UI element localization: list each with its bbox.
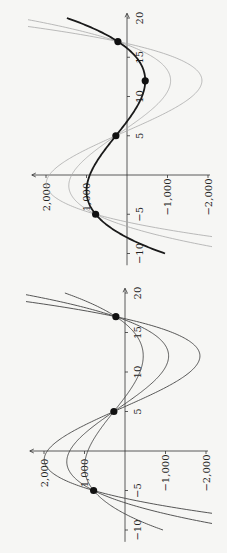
- x-tick-label: 5: [132, 408, 143, 414]
- value-tick-label: 2,000: [41, 183, 52, 212]
- x-tick-label: 10: [132, 366, 143, 379]
- x-tick-label: −5: [132, 483, 143, 498]
- data-point-marker: [92, 211, 99, 218]
- curve-line: [0, 261, 227, 545]
- chart-figure: −10−551015202,0001,000−1,000−2,000 −10−5…: [0, 0, 227, 553]
- curve-line: [0, 261, 227, 545]
- value-tick-label: −2,000: [201, 454, 212, 491]
- chart-panel-bottom: −10−551015202,0001,000−1,000−2,000: [0, 261, 227, 545]
- x-tick-label: 20: [134, 12, 145, 25]
- x-tick-label: −5: [134, 207, 145, 222]
- data-point-marker: [112, 313, 119, 320]
- x-tick-label: −10: [134, 243, 145, 264]
- data-point-marker: [142, 77, 149, 84]
- value-tick-label: −2,000: [203, 178, 214, 215]
- x-tick-label: 20: [132, 287, 143, 300]
- chart-panel-top: −10−551015202,0001,000−1,000−2,000: [0, 0, 227, 269]
- data-point-marker: [112, 132, 119, 139]
- x-tick-label: 5: [134, 133, 145, 139]
- value-tick-label: −1,000: [162, 178, 173, 215]
- data-point-marker: [114, 38, 121, 45]
- data-point-marker: [110, 408, 117, 415]
- data-point-marker: [90, 487, 97, 494]
- value-tick-label: 2,000: [39, 459, 50, 488]
- value-tick-label: −1,000: [160, 454, 171, 491]
- x-tick-label: −10: [132, 519, 143, 540]
